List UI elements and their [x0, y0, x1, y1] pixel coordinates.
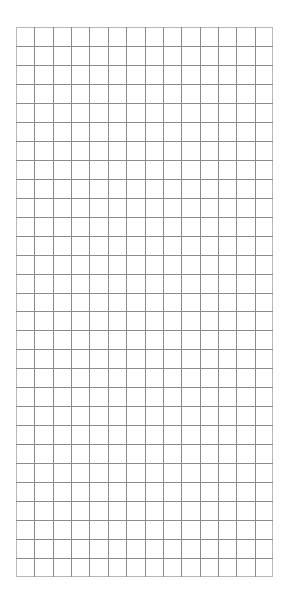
grid-lines: [16, 27, 273, 577]
graph-paper-grid: [16, 27, 273, 577]
